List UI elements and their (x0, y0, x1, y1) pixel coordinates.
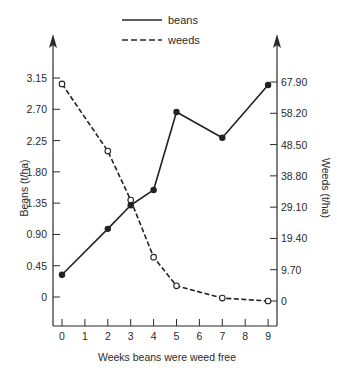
x-axis-title: Weeks beans were weed free (98, 351, 236, 363)
x-axis-ticks: 0123456789 (59, 319, 271, 342)
right-tick-label: 48.50 (281, 139, 307, 151)
beans-point (128, 202, 134, 208)
right-tick-label: 9.70 (281, 264, 302, 276)
right-tick-label: 19.40 (281, 232, 307, 244)
series-weeds (59, 81, 271, 304)
beans-point (219, 135, 225, 141)
right-tick-label: 58.20 (281, 107, 307, 119)
left-tick-label: 3.15 (27, 72, 48, 84)
weeds-point (128, 197, 134, 203)
series-beans (59, 82, 271, 278)
weeds-point (105, 148, 111, 154)
left-tick-label: 0 (41, 291, 47, 303)
beans-line (62, 85, 268, 275)
right-axis-title: Weeds (t/ha) (320, 158, 332, 218)
left-tick-label: 2.70 (27, 103, 48, 115)
axes (49, 34, 281, 326)
x-tick-label: 2 (105, 330, 111, 342)
legend-weeds-label: weeds (167, 34, 200, 46)
legend-beans-label: beans (168, 14, 198, 26)
x-tick-label: 3 (128, 330, 134, 342)
x-tick-label: 8 (242, 330, 248, 342)
beans-point (105, 226, 111, 232)
right-tick-label: 38.80 (281, 170, 307, 182)
weeds-point (220, 295, 226, 301)
beans-point (150, 187, 156, 193)
left-axis-title: Beans (t/ha) (18, 159, 30, 216)
weeds-point (265, 298, 271, 304)
x-tick-label: 9 (265, 330, 271, 342)
x-tick-label: 1 (82, 330, 88, 342)
bean-weed-chart: beans weeds 00.450.901.351.802.252.703.1… (0, 0, 337, 372)
x-tick-label: 0 (59, 330, 65, 342)
x-tick-label: 5 (174, 330, 180, 342)
weeds-point (59, 81, 65, 87)
beans-point (265, 82, 271, 88)
x-tick-label: 7 (219, 330, 225, 342)
left-axis-ticks: 00.450.901.351.802.252.703.15 (27, 72, 60, 303)
beans-point (173, 109, 179, 115)
beans-point (59, 272, 65, 278)
left-tick-label: 2.25 (27, 135, 48, 147)
x-tick-label: 6 (196, 330, 202, 342)
right-tick-label: 67.90 (281, 76, 307, 88)
legend: beans weeds (122, 14, 200, 46)
weeds-line (62, 84, 268, 301)
weeds-point (151, 254, 157, 260)
right-tick-label: 29.10 (281, 201, 307, 213)
left-tick-label: 0.90 (27, 228, 48, 240)
left-tick-label: 0.45 (27, 260, 48, 272)
x-tick-label: 4 (151, 330, 157, 342)
weeds-point (174, 283, 180, 289)
right-tick-label: 0 (281, 295, 287, 307)
right-axis-ticks: 09.7019.4029.1038.8048.5058.2067.90 (270, 76, 307, 307)
